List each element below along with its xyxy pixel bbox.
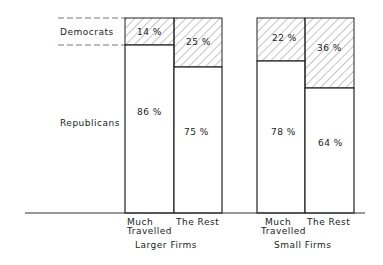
label-travelled-1: Travelled [126,226,172,236]
svg-text:78 %: 78 % [271,127,296,137]
svg-text:36 %: 36 % [317,43,342,53]
legend-democrats: Democrats [60,27,114,37]
bar-larger-the-rest: 25 % 75 % [174,18,222,213]
stacked-bar-chart: Democrats Republicans 14 % 86 % 25 % 75 … [0,0,383,265]
bar-small-the-rest: 36 % 64 % [305,18,354,213]
svg-text:86 %: 86 % [137,107,162,117]
bar-small-much-travelled: 22 % 78 % [257,18,305,213]
svg-text:22 %: 22 % [272,33,297,43]
legend-republicans: Republicans [60,118,120,128]
label-travelled-2: Travelled [260,226,306,236]
svg-text:25 %: 25 % [186,37,211,47]
svg-text:14 %: 14 % [137,27,162,37]
svg-text:64 %: 64 % [318,138,343,148]
label-rest-1: The Rest [175,217,219,227]
svg-text:75 %: 75 % [184,127,209,137]
group-label-larger: Larger Firms [135,240,197,250]
group-label-small: Small Firms [274,240,331,250]
bar-larger-much-travelled: 14 % 86 % [125,18,174,213]
label-rest-2: The Rest [306,217,350,227]
